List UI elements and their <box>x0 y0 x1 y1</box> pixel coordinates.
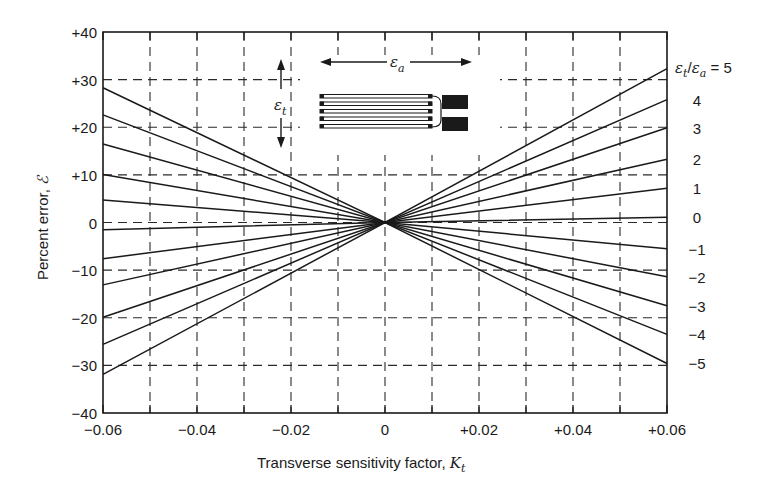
x-axis-title-symbol: K <box>449 454 462 472</box>
y-tick-label: +20 <box>72 119 97 136</box>
series-label--1: −1 <box>688 241 705 258</box>
series-label-0: 0 <box>693 209 701 226</box>
y-tick-label: −20 <box>72 310 97 327</box>
y-tick-label: +30 <box>72 72 97 89</box>
series-label--3: −3 <box>688 298 705 315</box>
chart-canvas: +40+30+20+100−10−20−30−40 −0.06−0.04−0.0… <box>0 0 776 495</box>
x-tick-label: +0.06 <box>648 421 686 438</box>
strain-gauge-diagram: εa εt <box>274 53 500 155</box>
y-tick-label: −40 <box>72 405 97 422</box>
x-axis-tick-labels: −0.06−0.04−0.020+0.02+0.04+0.06 <box>84 421 686 438</box>
x-axis-title: Transverse sensitivity factor, Kt <box>257 454 466 475</box>
x-tick-label: +0.04 <box>554 421 592 438</box>
y-axis-title: Percent error, ℰ <box>34 174 52 280</box>
y-axis-title-symbol: ℰ <box>34 174 52 185</box>
x-tick-label: −0.06 <box>84 421 122 438</box>
y-tick-label: +10 <box>72 167 97 184</box>
series-labels: εt/εa = 543210−1−2−3−4−5 <box>675 59 732 373</box>
y-axis-title-text: Percent error, <box>34 185 51 280</box>
x-tick-label: 0 <box>381 421 389 438</box>
series-label-2: 2 <box>693 151 701 168</box>
x-axis-title-subscript: t <box>461 462 466 475</box>
x-tick-label: +0.02 <box>460 421 498 438</box>
y-tick-label: 0 <box>89 215 97 232</box>
series-label-3: 3 <box>693 120 701 137</box>
x-tick-label: −0.02 <box>272 421 310 438</box>
series-label--5: −5 <box>688 355 705 372</box>
x-tick-label: −0.04 <box>178 421 216 438</box>
series-label--2: −2 <box>688 269 705 286</box>
transverse-strain-label: εt <box>274 96 287 118</box>
series-label--4: −4 <box>688 326 705 343</box>
series-label-4: 4 <box>693 92 701 109</box>
series-label-1: 1 <box>693 180 701 197</box>
x-axis-title-text: Transverse sensitivity factor, <box>257 454 450 471</box>
y-tick-label: −10 <box>72 262 97 279</box>
y-tick-label: +40 <box>72 24 97 41</box>
y-axis-tick-labels: +40+30+20+100−10−20−30−40 <box>72 24 97 422</box>
series-label-5: εt/εa = 5 <box>675 59 732 80</box>
y-tick-label: −30 <box>72 357 97 374</box>
